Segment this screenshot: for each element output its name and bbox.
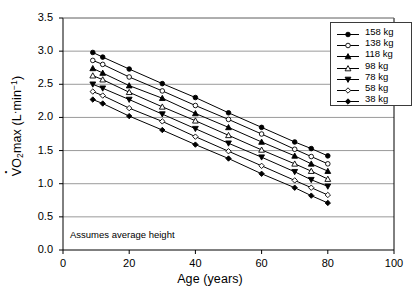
filled-triangle-down-marker-icon (193, 126, 199, 131)
open-circle-marker-icon (326, 162, 331, 167)
x-tick-label: 80 (313, 257, 343, 269)
open-diamond-marker-icon (325, 192, 330, 197)
filled-diamond-marker-icon (100, 101, 105, 106)
open-diamond-marker-icon (160, 119, 165, 124)
legend-marker-swatch (335, 71, 361, 82)
filled-diamond-marker-icon (160, 127, 165, 132)
chart-legend: 158 kg138 kg118 kg98 kg78 kg58 kg38 kg (330, 22, 412, 106)
legend-label: 158 kg (365, 26, 394, 37)
filled-diamond-marker-icon (226, 156, 231, 161)
legend-item[interactable]: 98 kg (331, 60, 411, 71)
open-circle-marker-icon (193, 103, 198, 108)
data-series (90, 82, 331, 189)
x-axis-title: Age (years) (0, 272, 420, 286)
legend-marker-swatch (335, 93, 361, 104)
filled-circle-marker-icon (100, 55, 105, 60)
legend-label: 78 kg (365, 71, 388, 82)
filled-circle-marker-icon (193, 95, 198, 100)
open-triangle-up-marker-icon (226, 132, 232, 137)
open-circle-marker-icon (346, 43, 351, 48)
open-diamond-marker-icon (292, 178, 297, 183)
filled-circle-marker-icon (259, 125, 264, 130)
filled-circle-marker-icon (309, 146, 314, 151)
filled-circle-marker-icon (90, 50, 95, 55)
legend-item[interactable]: 138 kg (331, 37, 411, 48)
filled-triangle-down-marker-icon (292, 169, 298, 174)
filled-circle-marker-icon (226, 110, 231, 115)
legend-label: 98 kg (365, 60, 388, 71)
x-tick-label: 0 (48, 257, 78, 269)
legend-marker-swatch (335, 48, 361, 59)
open-circle-marker-icon (100, 62, 105, 67)
y-tick-label: 1.5 (25, 144, 53, 156)
legend-item[interactable]: 118 kg (331, 48, 411, 59)
data-series-group (90, 50, 331, 205)
filled-triangle-down-marker-icon (100, 86, 106, 91)
chart-figure: VO2max (L·min−1) Age (years) Assumes ave… (0, 0, 420, 301)
x-tick-label: 100 (379, 257, 409, 269)
open-circle-marker-icon (127, 75, 132, 80)
legend-marker-swatch (335, 26, 361, 37)
data-series (90, 65, 331, 173)
filled-diamond-marker-icon (292, 185, 297, 190)
filled-circle-marker-icon (346, 32, 351, 37)
open-diamond-marker-icon (100, 93, 105, 98)
open-triangle-up-marker-icon (259, 147, 265, 152)
y-tick-label: 2.0 (25, 110, 53, 122)
filled-diamond-marker-icon (259, 171, 264, 176)
y-tick-label: 3.0 (25, 44, 53, 56)
filled-triangle-up-marker-icon (90, 65, 96, 70)
filled-triangle-down-marker-icon (325, 184, 331, 189)
open-triangle-up-marker-icon (126, 89, 132, 94)
filled-triangle-up-marker-icon (292, 153, 298, 158)
filled-diamond-marker-icon (345, 99, 350, 104)
open-triangle-up-marker-icon (90, 73, 96, 78)
y-tick-label: 0.0 (25, 243, 53, 255)
filled-triangle-up-marker-icon (325, 168, 331, 173)
filled-triangle-down-marker-icon (159, 112, 165, 117)
legend-item[interactable]: 78 kg (331, 71, 411, 82)
filled-triangle-up-marker-icon (126, 83, 132, 88)
filled-diamond-marker-icon (309, 193, 314, 198)
y-tick-label: 1.0 (25, 177, 53, 189)
legend-item[interactable]: 158 kg (331, 26, 411, 37)
open-diamond-marker-icon (259, 163, 264, 168)
legend-label: 138 kg (365, 37, 394, 48)
data-series (90, 73, 331, 182)
filled-triangle-up-marker-icon (308, 161, 314, 166)
filled-circle-marker-icon (326, 154, 331, 159)
filled-circle-marker-icon (292, 140, 297, 145)
legend-label: 118 kg (365, 48, 393, 59)
filled-triangle-up-marker-icon (226, 124, 232, 129)
filled-triangle-up-marker-icon (193, 111, 199, 116)
x-tick-label: 20 (114, 257, 144, 269)
legend-label: 58 kg (365, 82, 388, 93)
legend-item[interactable]: 58 kg (331, 82, 411, 93)
filled-diamond-marker-icon (325, 200, 330, 205)
filled-diamond-marker-icon (90, 97, 95, 102)
open-circle-marker-icon (226, 117, 231, 122)
filled-triangle-up-marker-icon (259, 139, 265, 144)
series-line (93, 68, 328, 171)
open-triangle-up-marker-icon (308, 168, 314, 173)
filled-triangle-down-marker-icon (259, 155, 265, 160)
open-diamond-marker-icon (90, 89, 95, 94)
legend-label: 38 kg (365, 93, 388, 104)
open-diamond-marker-icon (226, 149, 231, 154)
filled-triangle-down-marker-icon (226, 141, 232, 146)
x-tick-label: 60 (247, 257, 277, 269)
x-tick-label: 40 (180, 257, 210, 269)
y-tick-label: 2.5 (25, 77, 53, 89)
y-tick-label: 0.5 (25, 210, 53, 222)
open-circle-marker-icon (90, 58, 95, 63)
open-circle-marker-icon (160, 89, 165, 94)
open-diamond-marker-icon (309, 185, 314, 190)
filled-triangle-up-marker-icon (100, 70, 106, 75)
filled-circle-marker-icon (127, 67, 132, 72)
open-circle-marker-icon (309, 154, 314, 159)
open-circle-marker-icon (259, 132, 264, 137)
legend-item[interactable]: 38 kg (331, 93, 411, 104)
open-triangle-up-marker-icon (292, 161, 298, 166)
open-diamond-marker-icon (127, 105, 132, 110)
data-series (90, 58, 330, 166)
